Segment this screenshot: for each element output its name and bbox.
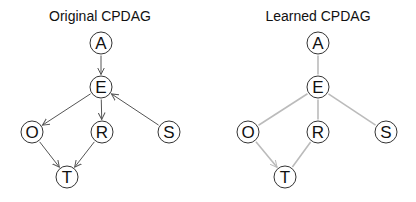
node-a: A (90, 32, 112, 54)
learned-nodes: AEORST (237, 32, 397, 188)
edge-e-o (259, 94, 308, 125)
node-label: A (95, 34, 107, 53)
edge-e-o (42, 94, 90, 125)
node-label: E (95, 78, 106, 97)
node-e: E (90, 76, 112, 98)
node-t: T (56, 166, 78, 188)
node-label: E (312, 78, 323, 97)
edge-r-t (75, 142, 95, 167)
node-label: O (25, 123, 38, 142)
original-cpdag-panel: Original CPDAG AEORST (21, 8, 180, 188)
node-a: A (307, 32, 329, 54)
edge-e-s (328, 94, 375, 125)
edge-o-t (40, 142, 60, 167)
original-edges (40, 56, 159, 168)
edge-s-e (111, 94, 158, 125)
learned-edges (256, 56, 376, 168)
node-e: E (307, 76, 329, 98)
node-s: S (158, 121, 180, 143)
node-r: R (307, 121, 329, 143)
node-label: A (312, 34, 324, 53)
cpdag-comparison-diagram: Original CPDAG AEORST Learned CPDAG AEOR… (0, 0, 416, 202)
original-cpdag-title: Original CPDAG (49, 8, 151, 24)
node-o: O (21, 121, 43, 143)
learned-cpdag-title: Learned CPDAG (265, 8, 370, 24)
node-label: S (163, 123, 174, 142)
node-label: T (280, 168, 290, 187)
node-label: O (241, 123, 254, 142)
original-nodes: AEORST (21, 32, 180, 188)
learned-cpdag-panel: Learned CPDAG AEORST (237, 8, 397, 188)
node-label: T (62, 168, 72, 187)
node-o: O (237, 121, 259, 143)
node-label: R (96, 123, 108, 142)
node-label: R (312, 123, 324, 142)
edge-o-t (256, 142, 277, 168)
node-r: R (91, 121, 113, 143)
node-t: T (274, 166, 296, 188)
edge-r-t (292, 142, 310, 167)
node-s: S (375, 121, 397, 143)
node-label: S (380, 123, 391, 142)
